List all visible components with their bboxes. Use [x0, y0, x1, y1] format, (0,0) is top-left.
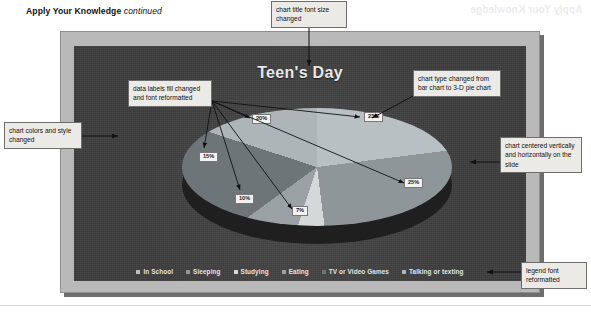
legend-swatch-icon: [186, 270, 190, 274]
callout-chart-colors: chart colors and style changed: [4, 122, 82, 149]
legend-label: Talking or texting: [409, 268, 464, 275]
page-title-bold: Apply Your Knowledge: [26, 6, 121, 16]
legend-swatch-icon: [282, 270, 286, 274]
callout-chart-type: chart type changed from bar chart to 3-D…: [413, 70, 501, 97]
callout-chart-centered: chart centered vertically and horizontal…: [500, 137, 582, 173]
legend-item-5[interactable]: Talking or texting: [402, 268, 464, 275]
callout-chart-title-font: chart title font size changed: [271, 1, 347, 28]
legend-item-1[interactable]: Sleeping: [186, 268, 220, 275]
legend-item-4[interactable]: TV or Video Games: [322, 268, 389, 275]
legend-label: Sleeping: [193, 268, 220, 275]
legend-label: Eating: [289, 268, 309, 275]
legend-swatch-icon: [322, 270, 326, 274]
data-label-4: 7%: [292, 206, 308, 216]
callout-data-labels: data labels fill changed and font reform…: [128, 80, 212, 107]
legend-label: TV or Video Games: [329, 268, 389, 275]
pie-chart[interactable]: [182, 100, 452, 252]
legend-swatch-icon: [136, 270, 140, 274]
legend-label: Studying: [241, 268, 269, 275]
data-label-3: 10%: [235, 194, 254, 204]
page-bottom-rule: [0, 305, 591, 306]
data-label-0: 20%: [252, 114, 271, 124]
page-title: Apply Your Knowledge continued: [26, 6, 162, 16]
data-label-1: 23%: [364, 112, 383, 122]
page-title-continued: continued: [124, 6, 162, 16]
pie-sectors: [182, 108, 452, 226]
ghost-bleedthrough-text: Apply Your Knowledge: [470, 4, 583, 15]
data-label-5: 25%: [404, 178, 423, 188]
legend-item-2[interactable]: Studying: [234, 268, 269, 275]
chart-legend[interactable]: In SchoolSleepingStudyingEatingTV or Vid…: [74, 268, 526, 275]
data-label-2: 15%: [199, 152, 218, 162]
legend-label: In School: [143, 268, 173, 275]
callout-legend-font: legend font reformatted: [521, 262, 587, 289]
legend-item-0[interactable]: In School: [136, 268, 173, 275]
pie-top-face: [182, 108, 452, 226]
legend-swatch-icon: [402, 270, 406, 274]
legend-swatch-icon: [234, 270, 238, 274]
legend-item-3[interactable]: Eating: [282, 268, 309, 275]
